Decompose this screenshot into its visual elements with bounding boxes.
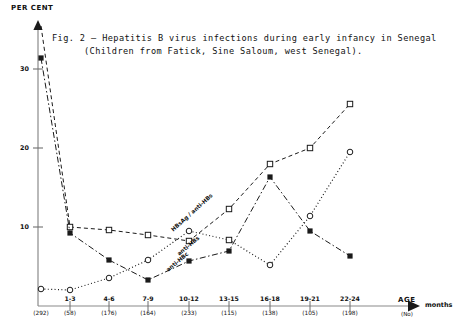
x-count-label-7-9: (164) — [128, 310, 168, 316]
x-count-label-16-18: (138) — [250, 310, 290, 316]
y-tick-label-20: 20 — [13, 144, 29, 152]
x-tick-label-10-12: 10-12 — [169, 295, 209, 302]
y-tick-label-30: 30 — [13, 65, 29, 73]
x-tick-label-7-9: 7-9 — [128, 295, 168, 302]
x-axis-unit-label: months — [425, 301, 452, 309]
x-axis-label: AGE — [398, 296, 415, 304]
series-antihbc-line — [41, 58, 350, 280]
x-tick-label-19-21: 19-21 — [290, 295, 330, 302]
figure-title-line-2: (Children from Fatick, Sine Saloum, west… — [84, 46, 363, 56]
x-axis-count-label: (No) — [401, 311, 413, 317]
x-count-label-10-12: (233) — [169, 310, 209, 316]
x-count-label-22-24: (198) — [330, 310, 370, 316]
x-tick-label-16-18: 16-18 — [250, 295, 290, 302]
series-antihbc-markers — [38, 55, 352, 282]
x-count-label-13-15: (115) — [209, 310, 249, 316]
x-count-label-19-21: (105) — [290, 310, 330, 316]
series-antihbs-markers — [38, 149, 353, 293]
x-count-label-4-6: (176) — [89, 310, 129, 316]
x-tick-label-22-24: 22-24 — [330, 295, 370, 302]
y-axis-label: PER CENT — [11, 4, 53, 12]
figure-title-line-1: Fig. 2 – Hepatitis B virus infections du… — [52, 33, 437, 43]
series-hbsag-antihbs-markers — [67, 101, 352, 243]
x-tick-label-13-15: 13-15 — [209, 295, 249, 302]
series-antihbs-line — [41, 152, 350, 290]
x-count-label-1-3: (58) — [50, 310, 90, 316]
x-tick-label-1-3: 1-3 — [50, 295, 90, 302]
x-tick-label-4-6: 4-6 — [89, 295, 129, 302]
y-tick-label-10: 10 — [13, 223, 29, 231]
